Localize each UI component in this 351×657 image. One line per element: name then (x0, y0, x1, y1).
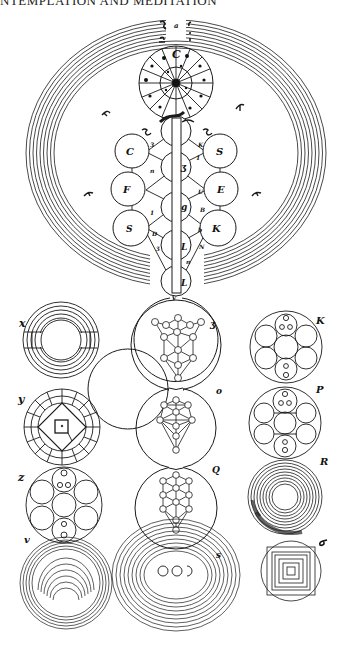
label-center-1: ʒ (209, 319, 216, 329)
label-k: K (315, 315, 326, 326)
mini-tree-2 (157, 397, 196, 454)
figure-p (249, 387, 321, 459)
label-center-3: Q (212, 465, 220, 475)
svg-text:B: B (199, 206, 205, 213)
label-z: z (17, 471, 25, 484)
label-sigma (320, 540, 327, 545)
figure-sigma (261, 541, 321, 601)
mini-tree-1 (152, 315, 205, 382)
svg-text:L: L (180, 278, 187, 288)
svg-text:K: K (211, 223, 222, 234)
svg-text:U: U (198, 188, 204, 195)
figure-s (100, 519, 252, 631)
figure-y (24, 389, 100, 465)
figure-v (20, 537, 112, 629)
label-p: P (315, 384, 324, 395)
label-b: C (172, 48, 181, 61)
figure-k (250, 311, 322, 383)
svg-text:K: K (197, 141, 204, 148)
svg-text:S: S (216, 146, 223, 157)
svg-text:F: F (122, 184, 131, 195)
central-trunk (172, 118, 181, 293)
svg-text:C: C (126, 146, 134, 157)
label-y: y (17, 393, 26, 406)
svg-text:n: n (186, 258, 190, 265)
figure-x (23, 302, 99, 378)
svg-text:1: 1 (196, 154, 200, 161)
svg-text:ʒ: ʒ (180, 162, 187, 172)
svg-text:1: 1 (150, 209, 154, 216)
svg-text:D: D (151, 230, 158, 237)
svg-text:Ʒ: Ʒ (155, 245, 160, 252)
svg-text:3: 3 (150, 141, 154, 148)
svg-text:g: g (181, 202, 187, 212)
kabbalistic-diagram: a C (0, 0, 351, 657)
label-center-2: o (216, 386, 222, 396)
svg-text:b: b (198, 226, 202, 233)
svg-text:E: E (216, 184, 225, 195)
label-a: a (174, 21, 179, 30)
label-s: s (216, 550, 221, 560)
svg-text:n: n (150, 167, 154, 174)
label-x: x (18, 317, 26, 330)
figure-r (248, 460, 322, 534)
label-r: R (319, 456, 328, 467)
svg-text:N: N (198, 243, 205, 250)
svg-text:S: S (126, 224, 133, 234)
figure-z (26, 467, 102, 543)
crown-wheel (139, 46, 213, 120)
label-v: v (24, 534, 30, 545)
figure-center-spheres (88, 298, 218, 429)
svg-text:L: L (180, 242, 187, 252)
